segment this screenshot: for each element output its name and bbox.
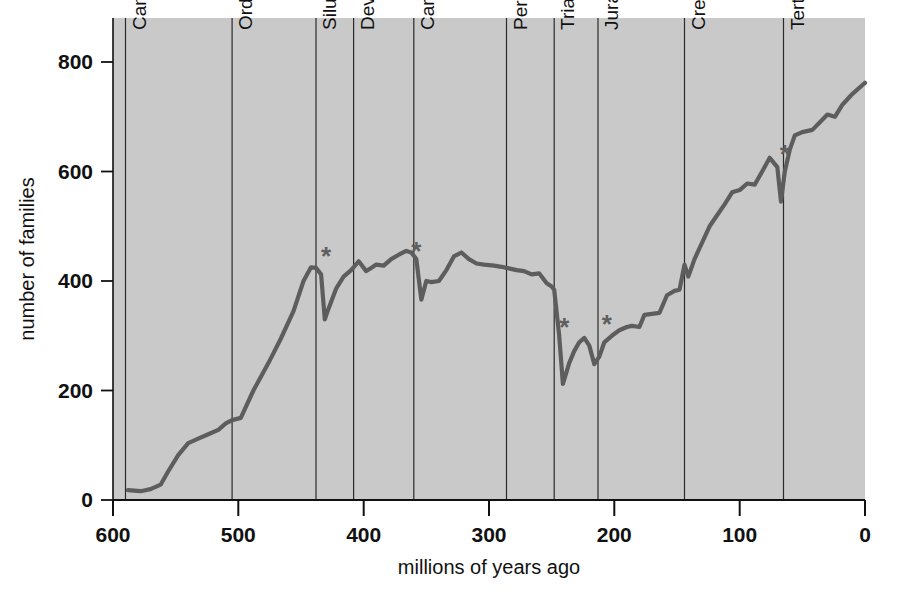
y-tick-label-0: 0: [81, 488, 93, 511]
period-label-permian: Permian: [510, 0, 531, 30]
end-ordovician-extinction-star-icon: *: [321, 241, 332, 271]
end-permian-extinction-star-icon: *: [559, 312, 570, 342]
x-tick-label-500: 500: [221, 523, 256, 546]
end-cretaceous-extinction-star-icon: *: [780, 139, 791, 169]
x-axis-title: millions of years ago: [398, 556, 580, 578]
x-tick-label-0: 0: [859, 523, 871, 546]
x-tick-label-100: 100: [722, 523, 757, 546]
period-label-jurassic: Jurassic: [601, 0, 622, 30]
plot-area-background: [113, 18, 865, 500]
x-tick-label-400: 400: [346, 523, 381, 546]
period-label-tertiary: Tertiary: [787, 0, 808, 30]
period-label-silurian: Silurian: [319, 0, 340, 30]
y-tick-label-600: 600: [58, 160, 93, 183]
y-axis-title: number of families: [16, 177, 38, 340]
end-triassic-extinction-star-icon: *: [602, 309, 613, 339]
late-devonian-extinction-star-icon: *: [411, 236, 422, 266]
period-label-cretaceous: Cretaceous: [688, 0, 709, 30]
x-tick-label-200: 200: [597, 523, 632, 546]
x-tick-label-600: 600: [95, 523, 130, 546]
x-axis: 6005004003002001000: [95, 500, 870, 546]
period-label-ordovician: Ordovician: [235, 0, 256, 30]
y-axis: 0200400600800: [58, 18, 113, 511]
chart-canvas: CambrianOrdovicianSilurianDevonianCarbon…: [0, 0, 897, 597]
period-label-devonian: Devonian: [357, 0, 378, 30]
y-tick-label-200: 200: [58, 379, 93, 402]
x-tick-label-300: 300: [471, 523, 506, 546]
y-tick-label-400: 400: [58, 269, 93, 292]
period-label-carboniferous: Carboniferous: [417, 0, 438, 30]
period-label-triassic: Triassic: [557, 0, 578, 30]
chart-figure: CambrianOrdovicianSilurianDevonianCarbon…: [0, 0, 897, 597]
period-label-cambrian: Cambrian: [129, 0, 150, 30]
y-tick-label-800: 800: [58, 50, 93, 73]
